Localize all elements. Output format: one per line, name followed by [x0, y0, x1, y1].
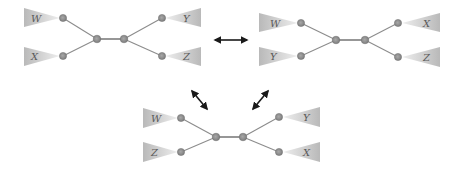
subtree-triangle-right-bottom: [402, 47, 440, 67]
leaf-node: [297, 52, 304, 59]
leaf-label-right-bottom: Z: [182, 51, 191, 62]
leaf-label-left-top: W: [270, 18, 281, 29]
leaf-node: [394, 53, 401, 60]
internal-node: [332, 36, 340, 44]
leaf-node: [177, 114, 184, 121]
tree-edges: [63, 18, 162, 56]
tree-diagram-canvas: W X Y Z W Y X Z: [0, 0, 459, 169]
rearrangement-arrows: [192, 40, 268, 109]
double-arrow-diagonal-right-icon: [253, 91, 268, 109]
subtree-triangle-right-bottom: [283, 142, 320, 162]
internal-node: [93, 35, 101, 43]
leaf-node: [158, 14, 165, 21]
subtree-triangle-left-bottom: [259, 47, 298, 66]
leaf-label-right-top: X: [422, 18, 431, 29]
double-arrow-diagonal-left-icon: [192, 91, 207, 109]
leaf-node: [394, 19, 401, 26]
internal-node: [120, 35, 128, 43]
subtree-triangle-left-bottom: [24, 47, 60, 66]
leaf-node: [177, 148, 184, 155]
leaf-label-right-bottom: X: [302, 147, 311, 158]
leaf-node: [275, 148, 282, 155]
tree-edges: [301, 23, 398, 57]
internal-node: [361, 36, 369, 44]
leaf-label-right-bottom: Z: [422, 52, 431, 63]
subtree-triangle-right-top: [283, 107, 320, 127]
tree-bottom: W Z Y X: [143, 107, 320, 162]
internal-node: [212, 133, 220, 141]
tree-edges: [181, 117, 279, 152]
tree-top-left: W X Y Z: [24, 8, 201, 66]
leaf-node: [59, 14, 66, 21]
tree-top-right: W Y X Z: [259, 13, 440, 67]
leaf-label-left-top: W: [31, 13, 42, 24]
subtree-triangle-left-top: [24, 8, 60, 27]
leaf-label-left-bottom: X: [30, 51, 39, 62]
leaf-node: [297, 19, 304, 26]
leaf-node: [275, 113, 282, 120]
leaf-label-left-bottom: Z: [150, 147, 159, 158]
leaf-label-left-top: W: [151, 113, 162, 124]
subtree-triangle-left-bottom: [143, 142, 178, 162]
internal-node: [239, 133, 247, 141]
leaf-node: [158, 52, 165, 59]
subtree-triangle-right-top: [402, 13, 440, 32]
leaf-node: [59, 52, 66, 59]
